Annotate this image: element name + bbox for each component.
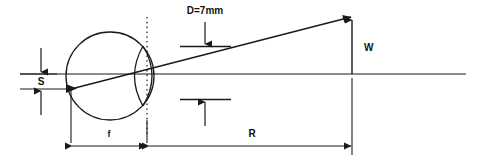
lens-back-arc (135, 46, 144, 106)
diagonal-ray-line (71, 17, 351, 89)
optical-diagram-container: S D=7mm W f R (0, 0, 487, 165)
label-aperture: D=7mm (187, 5, 224, 16)
eyeball-circle (66, 32, 154, 120)
label-focal-length: f (108, 129, 112, 139)
label-spot-offset: S (38, 76, 45, 87)
label-image-height: W (364, 42, 374, 53)
label-projection-distance: R (248, 128, 256, 139)
optical-diagram-svg: S D=7mm W f R (0, 0, 487, 165)
